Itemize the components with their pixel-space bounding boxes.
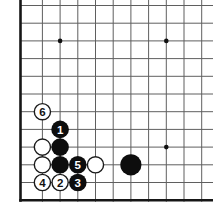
- stone-white-plain-8: [87, 157, 103, 173]
- stone-white-6: [34, 104, 50, 120]
- stone-black-plain-9: [120, 154, 141, 175]
- stone-black-1: [51, 121, 69, 139]
- go-diagram-screenshot: 615423: [0, 0, 222, 206]
- stone-black-plain-6: [51, 156, 69, 174]
- stone-white-4: [34, 174, 50, 190]
- stone-black-plain-4: [51, 138, 69, 156]
- star-point-3: [164, 145, 169, 150]
- star-point-2: [164, 39, 169, 44]
- stone-black-5: [69, 156, 87, 174]
- stone-white-plain-5: [34, 157, 50, 173]
- stone-white-plain-3: [34, 139, 50, 155]
- board-background: [0, 0, 222, 206]
- star-point-1: [58, 39, 63, 44]
- stone-black-3: [69, 174, 87, 192]
- stone-white-2: [52, 174, 68, 190]
- go-board-diagram: 615423: [0, 0, 222, 206]
